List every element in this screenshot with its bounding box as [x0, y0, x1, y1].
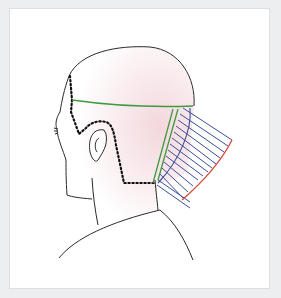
- haircut-diagram: [0, 0, 281, 298]
- head-shape: [56, 46, 194, 225]
- eyelash-icon: [54, 128, 58, 134]
